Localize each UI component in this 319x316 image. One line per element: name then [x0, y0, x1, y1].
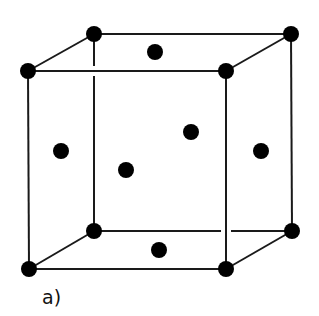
face-atom-top — [147, 44, 163, 60]
face-atom-left — [53, 143, 69, 159]
edge-bottom-right-depth — [226, 231, 292, 269]
face-atom-front — [118, 162, 134, 178]
corner-atom-back-bottom-left — [86, 223, 102, 239]
corner-atom-back-top-right — [283, 26, 299, 42]
edge-top-right-depth — [226, 34, 291, 71]
edge-bottom-left-depth — [29, 231, 94, 269]
face-atom-back — [183, 124, 199, 140]
figure-label: a) — [42, 286, 61, 308]
face-atom-right — [253, 143, 269, 159]
corner-atom-front-top-right — [218, 63, 234, 79]
edge-front-left — [28, 71, 29, 269]
corner-atom-front-bottom-left — [21, 261, 37, 277]
corner-atom-front-bottom-right — [218, 261, 234, 277]
corner-atom-back-bottom-right — [284, 223, 300, 239]
fcc-unit-cell-diagram — [0, 0, 319, 316]
edge-top-left-depth — [28, 34, 94, 71]
corner-atom-back-top-left — [86, 26, 102, 42]
corner-atom-front-top-left — [20, 63, 36, 79]
face-atom-bottom — [151, 242, 167, 258]
atoms — [20, 26, 300, 277]
edge-back-right — [291, 34, 292, 231]
